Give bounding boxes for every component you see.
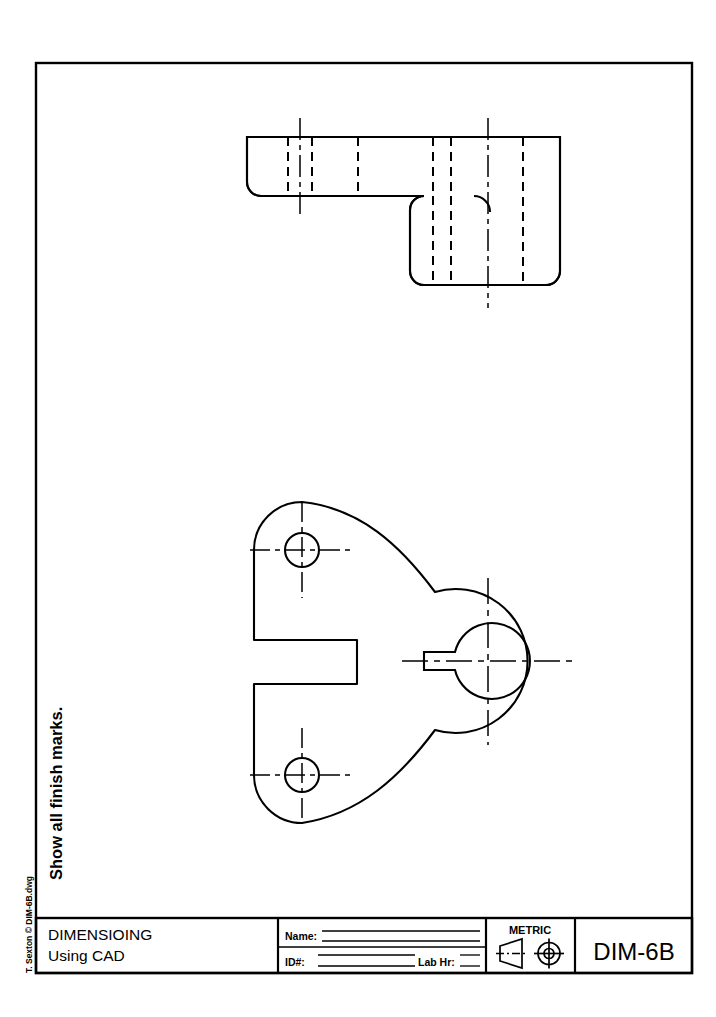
name-label: Name: <box>285 930 317 942</box>
title-block: DIMENSIOING Using CAD Name: ID#: Lab Hr:… <box>36 918 692 973</box>
units-label: METRIC <box>509 924 551 936</box>
assignment-title: DIMENSIOING <box>48 926 152 943</box>
engineering-drawing-canvas: Show all finish marks. T. Sexton © DIM-6… <box>0 0 716 1017</box>
top-view <box>247 118 560 308</box>
lab-hr-label: Lab Hr: <box>418 956 455 968</box>
id-label: ID#: <box>285 956 305 968</box>
drawing-sheet: Show all finish marks. T. Sexton © DIM-6… <box>0 0 716 1017</box>
instruction-note: Show all finish marks. <box>47 707 65 880</box>
sheet-border <box>36 63 692 973</box>
lower-hole-centerlines <box>250 728 352 824</box>
upper-hole-centerlines <box>250 502 352 598</box>
first-angle-projection-icon <box>496 939 564 969</box>
top-view-hidden-lines-lower <box>433 196 451 285</box>
credit-note: T. Sexton © DIM-6B.dwg <box>24 876 34 973</box>
top-view-outline <box>247 137 560 285</box>
central-boss-centerlines <box>402 578 574 745</box>
front-view <box>250 502 574 824</box>
drawing-number: DIM-6B <box>593 938 674 965</box>
top-view-centerlines <box>300 118 488 308</box>
assignment-subtitle: Using CAD <box>48 947 125 964</box>
top-view-outline-overlay <box>247 137 560 285</box>
